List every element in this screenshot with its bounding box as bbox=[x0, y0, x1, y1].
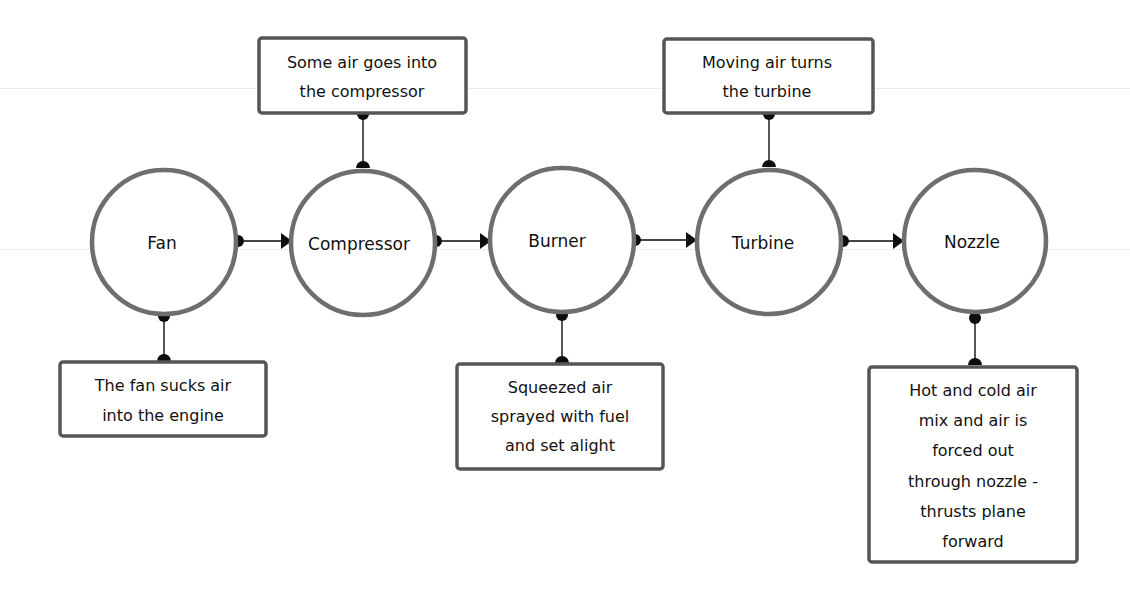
node-label-compressor: Compressor bbox=[308, 234, 410, 254]
node-label-fan: Fan bbox=[147, 233, 176, 253]
connector-nozzle-note bbox=[968, 312, 982, 365]
jet-engine-flow-diagram: Fan Compressor Burner Turbine Nozzle Som… bbox=[0, 0, 1130, 594]
connector-turbine-note bbox=[762, 114, 776, 167]
note-line: sprayed with fuel bbox=[491, 407, 630, 426]
node-turbine: Turbine bbox=[697, 170, 841, 314]
note-line: through nozzle - bbox=[908, 472, 1038, 491]
note-line: Hot and cold air bbox=[909, 381, 1037, 400]
node-label-burner: Burner bbox=[528, 231, 585, 251]
note-line: and set alight bbox=[505, 436, 615, 455]
note-line: forced out bbox=[932, 441, 1014, 460]
node-label-nozzle: Nozzle bbox=[944, 232, 1000, 252]
connector-burner-note bbox=[555, 309, 569, 363]
edge-burner-to-turbine bbox=[629, 232, 697, 248]
node-label-turbine: Turbine bbox=[731, 233, 794, 253]
note-line: thrusts plane bbox=[920, 502, 1026, 521]
note-nozzle: Hot and cold air mix and air is forced o… bbox=[869, 367, 1077, 562]
note-line: into the engine bbox=[102, 406, 224, 425]
note-turbine: Moving air turns the turbine bbox=[664, 39, 873, 113]
note-line: Squeezed air bbox=[508, 378, 613, 397]
node-compressor: Compressor bbox=[291, 171, 435, 315]
note-line: forward bbox=[942, 532, 1003, 551]
note-compressor: Some air goes into the compressor bbox=[259, 38, 466, 113]
note-burner: Squeezed air sprayed with fuel and set a… bbox=[457, 364, 663, 469]
edge-fan-to-compressor bbox=[232, 233, 292, 249]
note-line: Moving air turns bbox=[702, 53, 832, 72]
note-line: Some air goes into bbox=[287, 53, 437, 72]
note-line: the compressor bbox=[300, 82, 425, 101]
edge-compressor-to-burner bbox=[430, 233, 491, 249]
note-line: The fan sucks air bbox=[94, 376, 232, 395]
node-nozzle: Nozzle bbox=[904, 170, 1046, 312]
note-line: mix and air is bbox=[919, 411, 1027, 430]
connector-fan-note bbox=[157, 310, 171, 361]
node-fan: Fan bbox=[92, 170, 236, 314]
node-burner: Burner bbox=[490, 168, 634, 312]
note-line: the turbine bbox=[723, 82, 812, 101]
connector-compressor-note bbox=[356, 114, 370, 168]
edge-turbine-to-nozzle bbox=[837, 233, 904, 249]
note-fan: The fan sucks air into the engine bbox=[60, 362, 266, 436]
